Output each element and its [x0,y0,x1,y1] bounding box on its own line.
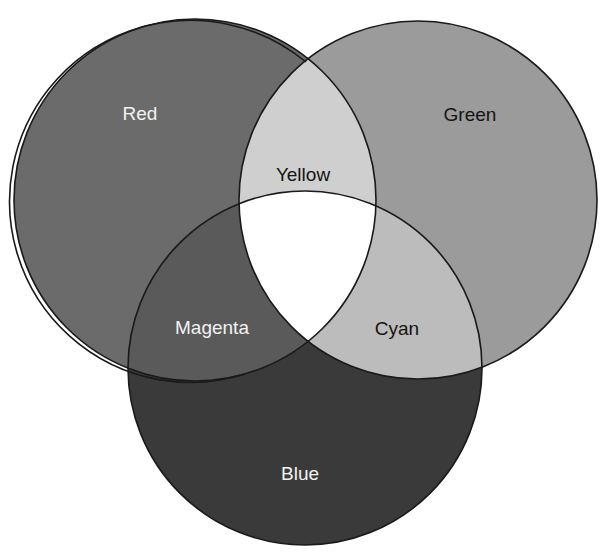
label-red: Red [123,103,158,124]
label-cyan: Cyan [375,318,419,339]
venn-diagram: Red Green Yellow Magenta Cyan Blue [0,0,616,554]
label-blue: Blue [281,463,319,484]
label-green: Green [444,104,497,125]
label-yellow: Yellow [276,164,331,185]
label-magenta: Magenta [175,317,249,338]
